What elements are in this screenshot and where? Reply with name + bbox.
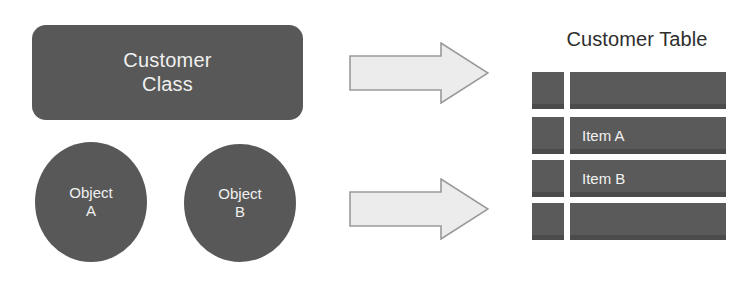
table-cell-value: Item B xyxy=(570,160,726,197)
object-a-circle: Object A xyxy=(35,142,147,262)
arrow-right-bottom-shape xyxy=(350,179,488,239)
diagram-canvas: Customer Class Object A Object B Custome… xyxy=(0,0,750,283)
table-cell-key xyxy=(532,72,564,109)
object-b-circle: Object B xyxy=(184,144,296,262)
table-cell-key xyxy=(532,203,564,240)
table-cell-value-label: Item A xyxy=(570,128,625,143)
arrow-right-bottom xyxy=(349,178,489,240)
table-row: Item B xyxy=(532,160,726,197)
table-cell-value-label: Item B xyxy=(570,171,625,186)
table-cell-value: Item A xyxy=(570,117,726,154)
arrow-right-top-shape xyxy=(350,43,488,103)
object-b-label: Object B xyxy=(218,185,261,221)
customer-class-box: Customer Class xyxy=(32,25,303,120)
customer-class-label: Customer Class xyxy=(123,49,211,96)
customer-table-title: Customer Table xyxy=(542,28,732,51)
table-cell-key xyxy=(532,160,564,197)
table-cell-value xyxy=(570,203,726,240)
table-row xyxy=(532,203,726,240)
table-row: Item A xyxy=(532,117,726,154)
table-cell-key xyxy=(532,117,564,154)
customer-table: Item A Item B xyxy=(532,72,726,242)
object-a-label: Object A xyxy=(69,184,112,220)
table-cell-value xyxy=(570,72,726,109)
table-row xyxy=(532,72,726,109)
arrow-right-top xyxy=(349,42,489,104)
